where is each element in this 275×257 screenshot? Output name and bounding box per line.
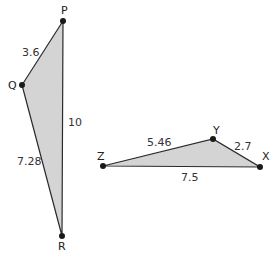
vertex-label-r: R [58,240,66,253]
vertex-p [60,18,66,24]
side-label-pq: 3.6 [22,46,40,59]
side-label-zy: 5.46 [147,136,172,149]
vertex-label-p: P [61,4,68,17]
vertex-x [257,164,263,170]
vertex-label-q: Q [8,79,17,92]
vertex-r [59,233,65,239]
vertex-z [100,163,106,169]
triangles-diagram: P Q R 3.6 10 7.28 Z Y X 5.46 2.7 7.5 [0,0,275,257]
vertex-label-x: X [262,150,270,163]
side-label-pr: 10 [68,116,82,129]
side-label-yx: 2.7 [234,140,252,153]
vertex-q [19,82,25,88]
side-label-zx: 7.5 [181,171,199,184]
vertex-label-z: Z [97,150,105,163]
vertex-label-y: Y [212,124,220,137]
side-label-qr: 7.28 [17,155,42,168]
